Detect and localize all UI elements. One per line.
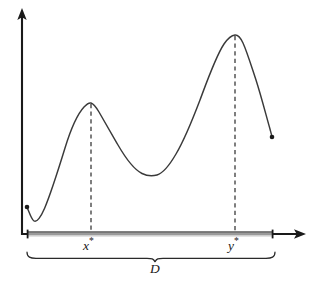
label-x-star: x* — [83, 236, 94, 252]
label-y-star: y* — [228, 236, 239, 252]
domain-brace-right-half — [155, 252, 275, 262]
label-domain-d: D — [150, 262, 160, 276]
domain-brace-left-half — [27, 252, 155, 262]
figure-container: x* y* D — [0, 0, 317, 289]
label-y-star-asterisk: * — [234, 235, 239, 246]
domain-bar-top-edge — [28, 231, 273, 233]
function-plot-svg — [0, 0, 317, 289]
y-axis-group — [17, 8, 26, 235]
curve-right-endpoint-dot — [270, 135, 275, 140]
curve-left-endpoint-dot — [25, 205, 30, 210]
label-x-star-asterisk: * — [89, 235, 94, 246]
